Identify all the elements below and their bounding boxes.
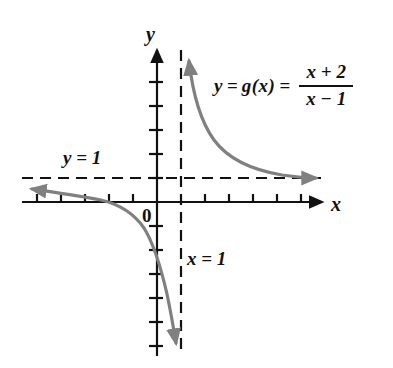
fraction-numerator: x + 2 [305,62,348,83]
x-axis-ticks-positive [205,194,301,202]
fraction-denominator: x − 1 [304,89,348,110]
fraction-bar [299,85,353,87]
equation-equals-first: = [223,75,242,97]
y-axis-label: y [146,24,155,44]
vertical-asymptote-label: x = 1 [187,249,226,268]
graph-canvas [0,0,393,368]
graph-figure: y x 0 y = 1 x = 1 y = g(x) = x + 2 x − 1 [0,0,393,368]
origin-label: 0 [142,206,152,225]
horizontal-asymptote-label: y = 1 [63,148,101,167]
equation-function-name: g(x) [242,75,276,97]
function-equation: y = g(x) = x + 2 x − 1 [214,62,353,109]
x-axis-label: x [331,194,341,214]
equation-fraction: x + 2 x − 1 [299,62,353,109]
curve-left-branch [32,189,176,343]
equation-lhs: y [214,75,223,97]
equation-equals-second: = [275,75,294,97]
